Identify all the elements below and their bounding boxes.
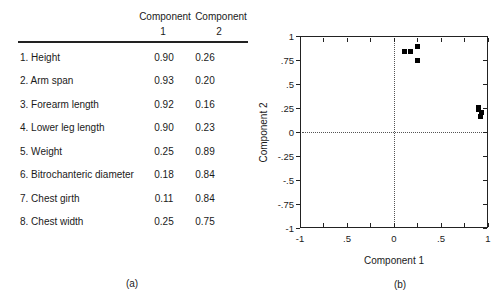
component1-loading: 0.90 <box>154 122 173 134</box>
table-row: 1. Height0.900.26 <box>0 52 260 65</box>
y-axis-tick <box>296 108 300 109</box>
y-axis-title: Component 2 <box>258 37 269 229</box>
table-header-component1-number: 1 <box>160 26 166 37</box>
y-axis-tick <box>296 228 300 229</box>
table-row: 6. Bitrochanteric diameter0.180.84 <box>0 169 260 182</box>
variable-label: 2. Arm span <box>20 75 73 87</box>
x-axis-tick <box>417 223 418 227</box>
data-point-marker <box>408 49 413 54</box>
x-axis-tick <box>370 223 371 227</box>
component2-loading: 0.16 <box>195 99 214 111</box>
y-axis-tick-right <box>483 84 487 85</box>
y-axis-tick <box>296 60 300 61</box>
panel-a-caption: (a) <box>126 278 138 289</box>
x-axis-tick-top <box>488 38 489 42</box>
table-row: 3. Forearm length0.920.16 <box>0 99 260 112</box>
y-axis-tick <box>296 36 300 37</box>
y-axis-tick-right <box>483 36 487 37</box>
component2-loading: 0.84 <box>195 193 214 205</box>
component1-loading: 0.92 <box>154 99 173 111</box>
y-axis-tick <box>296 84 300 85</box>
variable-label: 6. Bitrochanteric diameter <box>20 169 134 181</box>
table-row: 2. Arm span0.930.20 <box>0 75 260 88</box>
table-row: 7. Chest girth0.110.84 <box>0 193 260 206</box>
y-axis-tick <box>296 204 300 205</box>
variable-label: 8. Chest width <box>20 216 83 228</box>
x-axis-tick <box>441 223 442 227</box>
x-axis-tick-top <box>347 38 348 42</box>
x-axis-tick-top <box>441 38 442 42</box>
x-axis-tick-top <box>370 38 371 42</box>
y-axis-tick-right <box>483 156 487 157</box>
variable-label: 3. Forearm length <box>20 99 99 111</box>
x-axis-tick-top <box>417 38 418 42</box>
component1-loading: 0.25 <box>154 216 173 228</box>
panel-b-caption: (b) <box>394 279 406 290</box>
component1-loading: 0.25 <box>154 146 173 158</box>
x-axis-tick <box>394 223 395 227</box>
x-axis-tick-top <box>300 38 301 42</box>
table-header-component1-title: Component <box>139 11 191 22</box>
y-axis-tick <box>296 132 300 133</box>
variable-label: 5. Weight <box>20 146 62 158</box>
data-point-marker <box>415 58 420 63</box>
zero-reference-line-horizontal <box>302 132 486 133</box>
x-tick-label: .5 <box>343 233 351 244</box>
x-axis-title: Component 1 <box>300 255 488 266</box>
y-axis-tick <box>296 156 300 157</box>
x-tick-label: -1 <box>296 233 304 244</box>
data-point-marker <box>402 49 407 54</box>
x-tick-label: .5 <box>437 233 445 244</box>
component2-loading: 0.75 <box>195 216 214 228</box>
component1-loading: 0.11 <box>155 193 174 205</box>
y-axis-tick-right <box>483 108 487 109</box>
variable-label: 7. Chest girth <box>20 193 79 205</box>
component2-loading: 0.20 <box>195 75 214 87</box>
component2-loading: 0.84 <box>195 169 214 181</box>
component1-loading: 0.90 <box>154 52 173 64</box>
component1-loading: 0.93 <box>154 75 173 87</box>
y-axis-tick-right <box>483 132 487 133</box>
y-axis-tick <box>296 180 300 181</box>
x-axis-tick <box>323 223 324 227</box>
data-point-marker <box>415 44 420 49</box>
component1-loading: 0.18 <box>154 169 173 181</box>
x-axis-tick-top <box>464 38 465 42</box>
x-axis-tick <box>464 223 465 227</box>
component2-loading: 0.23 <box>195 122 214 134</box>
y-axis-tick-right <box>483 180 487 181</box>
variable-label: 4. Lower leg length <box>20 122 105 134</box>
table-header-component2-title: Component <box>195 11 247 22</box>
x-tick-label: 0 <box>391 233 396 244</box>
table-row: 4. Lower leg length0.900.23 <box>0 122 260 135</box>
x-axis-tick <box>488 223 489 227</box>
y-axis-tick-right <box>483 60 487 61</box>
variable-label: 1. Height <box>20 52 60 64</box>
data-point-marker <box>478 114 483 119</box>
x-axis-tick <box>300 223 301 227</box>
component2-loading: 0.26 <box>195 52 214 64</box>
x-axis-tick-top <box>394 38 395 42</box>
figure-canvas: Component Component 1 2 1. Height0.900.2… <box>0 0 504 306</box>
table-header-rule <box>18 41 248 43</box>
y-axis-tick-right <box>483 228 487 229</box>
table-row: 5. Weight0.250.89 <box>0 146 260 159</box>
x-axis-tick <box>347 223 348 227</box>
component2-loading: 0.89 <box>195 146 214 158</box>
table-header-component2-number: 2 <box>216 26 222 37</box>
table-row: 8. Chest width0.250.75 <box>0 216 260 229</box>
y-axis-tick-right <box>483 204 487 205</box>
x-axis-tick-top <box>323 38 324 42</box>
x-tick-label: 1 <box>485 233 490 244</box>
data-point-marker <box>476 107 481 112</box>
